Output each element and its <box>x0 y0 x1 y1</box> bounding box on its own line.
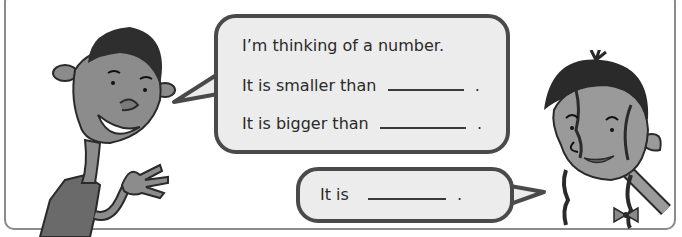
bubble-2-line: It is . <box>320 185 462 204</box>
boy-illustration <box>10 15 180 237</box>
girl-illustration <box>536 50 676 230</box>
bubble-line-2: It is smaller than . <box>242 76 480 95</box>
speech-bubble-1: I’m thinking of a number. It is smaller … <box>214 14 510 154</box>
bubble-line-1: I’m thinking of a number. <box>242 36 444 55</box>
bubble-line-3: It is bigger than . <box>242 114 482 133</box>
answer-blank-bigger[interactable] <box>380 127 466 129</box>
answer-blank-number[interactable] <box>368 198 446 200</box>
speech-bubble-2: It is . <box>296 167 514 223</box>
answer-blank-smaller[interactable] <box>388 89 464 91</box>
